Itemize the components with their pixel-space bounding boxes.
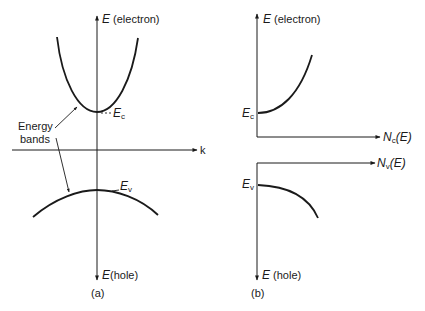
energy-bands-arrow-lower — [56, 138, 69, 192]
ec-label-a: Ec — [113, 106, 125, 121]
energy-hole-label: E(hole) — [102, 268, 138, 282]
nv-axis-label: Nv(E) — [377, 156, 406, 171]
nc-axis-label: Nc(E) — [383, 130, 412, 145]
ev-leader-line — [112, 190, 119, 191]
panel-b: E (electron) Nc(E) Ec Nv(E) Ev E (hole) … — [242, 12, 412, 299]
energy-hole-label-b: E (hole) — [262, 268, 301, 282]
panel-a: k E (electron) E(hole) Ec Ev Energy band… — [12, 12, 206, 299]
band-diagram-figure: k E (electron) E(hole) Ec Ev Energy band… — [0, 0, 425, 311]
nv-density-curve — [258, 185, 318, 218]
nc-density-curve — [258, 55, 312, 113]
energy-electron-label-b: E (electron) — [263, 12, 321, 26]
energy-bands-label-line2: bands — [20, 133, 50, 145]
energy-bands-label-line1: Energy — [18, 120, 53, 132]
panel-b-caption: (b) — [251, 287, 264, 299]
ev-label-a: Ev — [120, 179, 132, 194]
ec-label-b: Ec — [242, 106, 254, 121]
k-axis-label: k — [200, 144, 206, 156]
panel-a-caption: (a) — [91, 287, 104, 299]
ev-label-b: Ev — [242, 177, 254, 192]
valence-band-curve — [33, 190, 158, 217]
energy-bands-arrow-upper — [55, 107, 77, 128]
energy-electron-label: E (electron) — [102, 12, 160, 26]
